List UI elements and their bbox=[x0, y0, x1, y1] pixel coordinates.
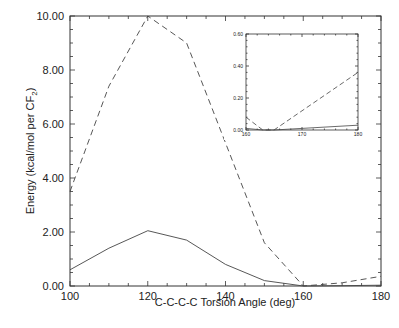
inset-y-tick-label: 0.20 bbox=[233, 95, 243, 101]
inset-x-tick-label: 180 bbox=[354, 131, 363, 137]
main-y-tick-label: 8.00 bbox=[43, 64, 64, 76]
main-y-tick-label: 10.00 bbox=[36, 10, 64, 22]
inset-chart: 1601701800.000.200.400.60 bbox=[224, 28, 364, 140]
energy-torsion-chart: 1001201401601800.002.004.006.008.0010.00… bbox=[0, 0, 399, 328]
main-y-tick-label: 2.00 bbox=[43, 226, 64, 238]
inset-y-tick-label: 0.60 bbox=[233, 31, 243, 37]
main-x-tick-label: 180 bbox=[372, 290, 390, 302]
inset-y-tick-label: 0.40 bbox=[233, 63, 243, 69]
main-y-tick-label: 4.00 bbox=[43, 172, 64, 184]
y-axis-title: Energy (kcal/mol per CF2) bbox=[24, 88, 39, 215]
x-axis-title: C-C-C-C Torsion Angle (deg) bbox=[155, 296, 295, 308]
inset-x-tick-label: 160 bbox=[242, 131, 251, 137]
inset-x-tick-label: 170 bbox=[298, 131, 307, 137]
inset-y-tick-label: 0.00 bbox=[233, 127, 243, 133]
main-y-tick-label: 0.00 bbox=[43, 280, 64, 292]
main-x-tick-label: 160 bbox=[294, 290, 312, 302]
main-solid-series-line bbox=[70, 231, 381, 286]
main-y-tick-label: 6.00 bbox=[43, 118, 64, 130]
